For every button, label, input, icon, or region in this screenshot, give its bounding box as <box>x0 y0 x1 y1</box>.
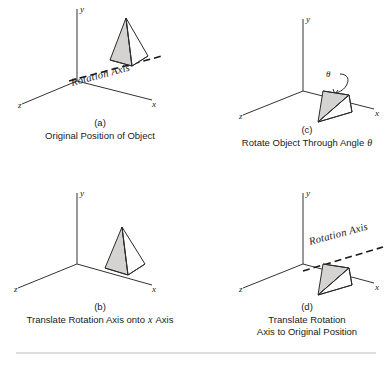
panel-a-pyramid <box>110 18 148 66</box>
panel-c-caption-text: Rotate Object Through Angle <box>242 137 364 148</box>
panel-d-letter: (d) <box>301 301 313 312</box>
y-axis-label: y <box>305 14 310 24</box>
z-axis-label: z <box>13 284 18 294</box>
x-axis-label: x <box>151 99 156 109</box>
panel-b-axes <box>18 193 152 288</box>
panel-c-letter: (c) <box>301 124 312 135</box>
z-axis <box>243 264 303 288</box>
z-axis-label: z <box>238 284 243 294</box>
panel-c-caption-theta: θ <box>367 137 372 148</box>
x-axis-label: x <box>374 282 379 292</box>
rotation-axis-label: Rotation Axis <box>69 62 131 89</box>
y-axis-label: y <box>79 4 84 14</box>
z-axis-label: z <box>238 111 243 121</box>
panel-c-caption: Rotate Object Through Angleθ <box>242 137 372 148</box>
figure-container: y x z Rotation Axis (a) Original Positio… <box>0 0 392 371</box>
x-axis <box>77 81 152 100</box>
rotation-steps-diagram: y x z Rotation Axis (a) Original Positio… <box>0 0 392 371</box>
panel-c-pyramid <box>318 91 352 122</box>
z-axis <box>18 264 77 288</box>
panel-d-caption-line2: Axis to Original Position <box>257 326 357 337</box>
y-axis-label: y <box>305 188 310 198</box>
z-axis-label: z <box>17 100 22 110</box>
theta-arrow <box>333 74 348 94</box>
panel-d-pyramid <box>318 264 352 295</box>
x-axis-label: x <box>151 284 156 294</box>
rotation-axis-label: Rotation Axis <box>307 221 369 248</box>
y-axis-label: y <box>79 188 84 198</box>
panel-d: y x z Rotation Axis (d) Translate Rotati… <box>238 188 383 337</box>
panel-b: y x z (b) Translate Rotation Axis ontoxA… <box>13 188 174 325</box>
panel-b-caption-axis-italic: x <box>147 314 153 325</box>
panel-d-caption-line1: Translate Rotation <box>268 314 345 325</box>
panel-b-caption-post: Axis <box>155 314 173 325</box>
panel-b-letter: (b) <box>94 301 106 312</box>
panel-c-axes <box>243 19 374 115</box>
panel-a-caption: Original Position of Object <box>45 130 155 141</box>
theta-label: θ <box>326 69 331 79</box>
panel-b-pyramid <box>105 227 145 275</box>
panel-a-letter: (a) <box>94 117 106 128</box>
panel-c: y x z θ (c) Rotate Object Through Angleθ <box>238 14 379 148</box>
z-axis <box>243 91 303 115</box>
panel-b-caption: Translate Rotation Axis ontoxAxis <box>27 314 174 325</box>
z-axis <box>22 81 77 104</box>
panel-a: y x z Rotation Axis (a) Original Positio… <box>17 4 162 141</box>
x-axis-label: x <box>374 108 379 118</box>
panel-b-caption-pre: Translate Rotation Axis onto <box>27 314 145 325</box>
